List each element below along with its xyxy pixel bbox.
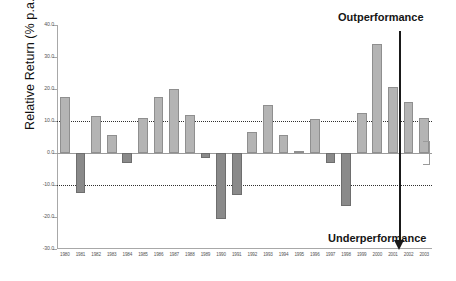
bar-1997 [326, 153, 336, 163]
y-tick-label: -30.0 [43, 245, 54, 251]
bar-1998 [341, 153, 351, 206]
x-tick-label-1991: 1991 [229, 252, 245, 257]
bar-1983 [107, 135, 117, 153]
y-tick-label: -20.0 [43, 213, 54, 219]
x-tick-label-1981: 1981 [73, 252, 89, 257]
bar-2002 [404, 102, 414, 153]
chart-screenshot: Relative Return (% p.a.) 40.030.020.010.… [0, 0, 456, 281]
x-tick-label-1987: 1987 [166, 252, 182, 257]
x-tick-label-1980: 1980 [57, 252, 73, 257]
bar-1993 [263, 105, 273, 153]
bar-1990 [216, 153, 226, 219]
x-tick-label-1996: 1996 [307, 252, 323, 257]
bar-1994 [279, 135, 289, 153]
x-tick-label-1992: 1992 [245, 252, 261, 257]
bar-1989 [201, 153, 211, 158]
bar-1985 [138, 118, 148, 153]
y-tick-label: -10.0 [43, 181, 54, 187]
x-tick-label-1994: 1994 [276, 252, 292, 257]
x-tick-label-1993: 1993 [260, 252, 276, 257]
bar-1982 [91, 116, 101, 153]
bar-1992 [247, 132, 257, 153]
x-tick-label-1983: 1983 [104, 252, 120, 257]
x-tick-label-2003: 2003 [416, 252, 432, 257]
x-tick-label-1999: 1999 [354, 252, 370, 257]
bar-1987 [169, 89, 179, 153]
x-tick-label-1990: 1990 [213, 252, 229, 257]
y-tick-label: 30.0 [44, 53, 54, 59]
x-tick-label-1982: 1982 [88, 252, 104, 257]
x-tick-label-1995: 1995 [291, 252, 307, 257]
bar-1996 [310, 119, 320, 153]
x-axis-tick-labels: 1980198119821983198419851986198719881989… [57, 252, 432, 268]
x-tick-label-1989: 1989 [198, 252, 214, 257]
direction-arrow-shaft [399, 31, 401, 246]
bar-1980 [60, 97, 70, 153]
bar-2001 [388, 87, 398, 153]
x-tick-label-2000: 2000 [370, 252, 386, 257]
bar-series [57, 25, 432, 249]
x-tick-label-1998: 1998 [338, 252, 354, 257]
y-tick-label: 40.0 [44, 21, 54, 27]
x-tick-label-1984: 1984 [120, 252, 136, 257]
bar-2000 [372, 44, 382, 153]
x-tick-label-1988: 1988 [182, 252, 198, 257]
bar-1986 [154, 97, 164, 153]
x-tick-label-1985: 1985 [135, 252, 151, 257]
annotation-underperformance: Underperformance [328, 232, 426, 244]
bar-1988 [185, 115, 195, 153]
bar-1995 [294, 151, 304, 153]
y-tick-label: 0.0 [47, 149, 54, 155]
y-tick-label: 10.0 [44, 117, 54, 123]
bar-1991 [232, 153, 242, 195]
x-tick-label-1986: 1986 [151, 252, 167, 257]
x-tick-label-2002: 2002 [401, 252, 417, 257]
bar-1984 [122, 153, 132, 163]
bar-1999 [357, 113, 367, 153]
annotation-outperformance: Outperformance [338, 11, 424, 23]
y-axis-title: Relative Return (% p.a.) [23, 0, 37, 162]
bar-1981 [76, 153, 86, 193]
range-bracket [423, 141, 430, 165]
plot-area: 40.030.020.010.00.0-10.0-20.0-30.0 [57, 25, 432, 249]
y-tick-label: 20.0 [44, 85, 54, 91]
x-tick-label-1997: 1997 [323, 252, 339, 257]
x-tick-label-2001: 2001 [385, 252, 401, 257]
